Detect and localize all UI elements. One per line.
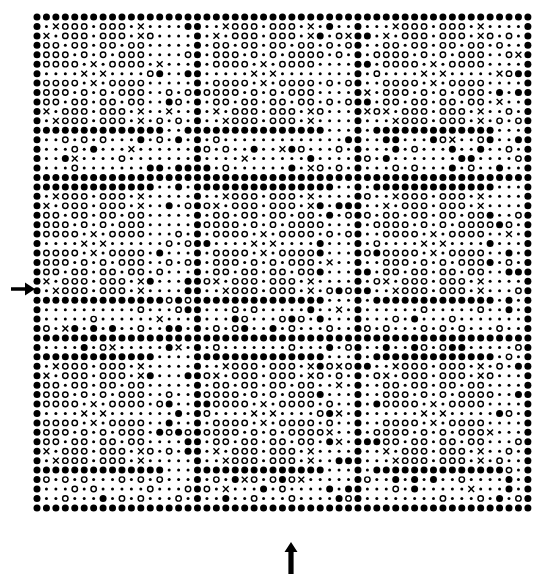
bottom-column-indicator-arrow — [284, 542, 298, 574]
left-row-indicator-arrow — [11, 281, 35, 297]
barcode-symbol-grid — [0, 0, 558, 578]
barcode-figure — [0, 0, 558, 578]
